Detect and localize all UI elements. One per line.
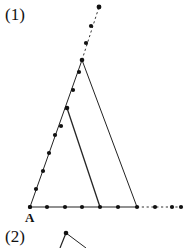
lattice-dot — [153, 205, 157, 209]
large-triangle-apex-dot — [80, 58, 85, 63]
lattice-dot — [84, 41, 88, 45]
inner-triangle-group — [67, 108, 100, 207]
lattice-dot — [63, 205, 67, 209]
lattice-dot — [41, 169, 45, 173]
lattice-dot — [80, 205, 84, 209]
inner-triangle-right-side — [67, 108, 100, 207]
lattice-dot — [59, 124, 63, 128]
inner-triangle-apex-dot — [65, 106, 70, 111]
vertex-a-label: A — [25, 211, 34, 224]
lattice-dot — [34, 187, 38, 191]
part-one-label: (1) — [5, 6, 25, 23]
geometry-figure: (1) (2) A — [0, 0, 185, 248]
lattice-dot — [170, 205, 174, 209]
part-two-apex-dot — [64, 231, 69, 236]
lattice-dot — [77, 70, 81, 74]
apex-ray-dots-group — [80, 5, 102, 63]
part-two-partial-shape-group — [60, 231, 86, 248]
large-triangle-group — [30, 60, 137, 207]
part-two-label: (2) — [5, 228, 25, 245]
apex-ray-group — [82, 7, 99, 60]
left-side-dots-group — [28, 70, 81, 209]
lattice-dot — [179, 205, 183, 209]
lattice-dot — [71, 88, 75, 92]
lattice-dot — [97, 5, 102, 10]
lattice-dot — [98, 205, 102, 209]
large-triangle-right-side — [82, 60, 137, 207]
lattice-dot — [45, 205, 49, 209]
part-two-left-leg — [60, 233, 66, 248]
lattice-dot — [47, 151, 51, 155]
lattice-dot — [53, 133, 57, 137]
point-a-dot — [28, 205, 32, 209]
part-two-right-leg — [66, 233, 86, 248]
lattice-dot — [89, 24, 93, 28]
lattice-dot — [135, 205, 139, 209]
apex-dashed-ray — [82, 7, 99, 60]
lattice-dot — [116, 205, 120, 209]
